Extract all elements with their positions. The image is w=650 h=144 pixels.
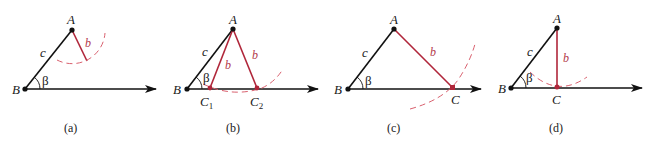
- label-beta: β: [203, 70, 210, 85]
- label-c: c: [202, 44, 208, 59]
- angle-beta-arc: [34, 77, 40, 89]
- caption-d: (d): [549, 121, 563, 135]
- label-beta: β: [365, 73, 372, 88]
- point-b: [508, 85, 513, 90]
- label-side-b: b: [430, 45, 436, 59]
- label-c1: C1: [200, 94, 213, 111]
- point-c1: [208, 86, 213, 91]
- label-beta: β: [42, 73, 49, 88]
- label-b: B: [12, 82, 20, 97]
- dashed-arc: [530, 72, 587, 86]
- panel-c: A B c b β C (c): [334, 12, 481, 135]
- label-side-b: b: [85, 36, 91, 50]
- label-b: B: [498, 81, 506, 96]
- ambiguous-case-figure: A B c b β (a) A B c b b β C1 C2 (b): [0, 0, 650, 144]
- panel-a: A B c b β (a): [12, 12, 156, 135]
- label-side-b-1: b: [225, 58, 231, 72]
- point-c: [450, 85, 455, 90]
- label-b: B: [334, 82, 342, 97]
- label-a: A: [228, 12, 237, 27]
- panel-b: A B c b b β C1 C2 (b): [173, 12, 318, 135]
- label-c-vertex: C: [451, 92, 460, 107]
- label-a: A: [66, 12, 75, 27]
- caption-a: (a): [64, 121, 77, 135]
- caption-c: (c): [387, 121, 400, 135]
- label-beta: β: [526, 70, 533, 85]
- angle-beta-arc: [357, 77, 363, 89]
- point-a: [230, 26, 235, 31]
- label-c-vertex: C: [552, 92, 561, 107]
- point-b: [345, 86, 350, 91]
- point-c2: [255, 86, 260, 91]
- point-b: [22, 86, 27, 91]
- point-c: [555, 85, 560, 90]
- point-a: [554, 25, 559, 30]
- label-b: B: [173, 82, 181, 97]
- side-b: [394, 29, 453, 88]
- angle-beta-arc: [196, 77, 202, 89]
- label-c: c: [527, 44, 533, 59]
- label-a: A: [552, 11, 561, 26]
- point-b: [184, 86, 189, 91]
- label-side-b-2: b: [252, 48, 258, 62]
- side-c: [511, 28, 557, 88]
- point-a: [391, 26, 396, 31]
- label-a: A: [389, 12, 398, 27]
- label-c: c: [40, 45, 46, 60]
- caption-b: (b): [226, 121, 240, 135]
- label-side-b: b: [563, 51, 569, 65]
- panel-d: A B c b β C (d): [498, 11, 642, 135]
- label-c: c: [362, 45, 368, 60]
- label-c2: C2: [250, 94, 263, 111]
- point-a: [69, 27, 74, 32]
